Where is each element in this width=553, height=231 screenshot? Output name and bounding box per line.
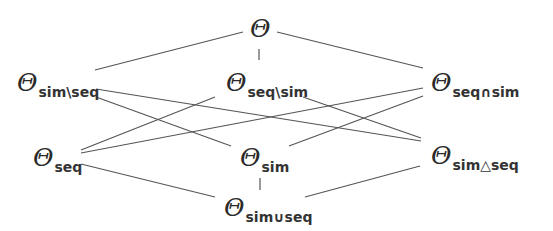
node-theta-sim-symdiff-seq: Θsim△seq (431, 143, 519, 168)
edge-top-seq-cap-sim (277, 32, 423, 68)
edge-seq-minus-sim-seq (81, 97, 215, 150)
subscript: sim\seq (39, 84, 100, 100)
node-theta-seq-minus-sim: Θseq\sim (226, 70, 308, 95)
edge-sim-symdiff-seq-sim-cup-seq (305, 166, 420, 197)
theta-symbol: Θ (431, 68, 452, 97)
edge-top-sim-minus-seq (95, 32, 243, 70)
lattice-diagram: Θ Θsim\seq Θseq\sim Θseq∩sim Θseq Θsim Θ… (0, 0, 553, 231)
subscript: seq\sim (248, 84, 309, 100)
node-theta-seq: Θseq (33, 145, 82, 170)
node-theta-sim: Θsim (240, 145, 289, 170)
node-theta-top: Θ (250, 16, 271, 41)
subscript: seq∩sim (453, 84, 520, 100)
theta-symbol: Θ (17, 68, 38, 97)
node-theta-sim-minus-seq: Θsim\seq (17, 70, 99, 95)
node-theta-sim-cup-seq: Θsim∪seq (224, 195, 312, 220)
theta-symbol: Θ (431, 141, 452, 170)
theta-symbol: Θ (224, 193, 245, 222)
subscript: sim (262, 159, 290, 175)
subscript: seq (55, 159, 83, 175)
edge-sim-minus-seq-sim (96, 97, 231, 146)
theta-symbol: Θ (33, 143, 54, 172)
subscript: sim△seq (453, 157, 519, 173)
theta-symbol: Θ (240, 143, 261, 172)
node-theta-seq-cap-sim: Θseq∩sim (431, 70, 519, 95)
subscript: sim∪seq (246, 209, 313, 225)
edge-seq-sim-cup-seq (81, 164, 215, 197)
theta-symbol: Θ (250, 14, 271, 43)
theta-symbol: Θ (226, 68, 247, 97)
